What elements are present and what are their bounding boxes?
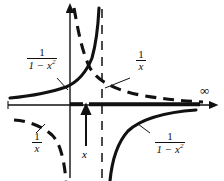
label-bottom-left-denominator: x <box>32 142 42 154</box>
label-top-left: 1 1 − x2 <box>14 47 70 72</box>
label-right-numerator: 1 <box>136 49 146 60</box>
label-right: 1 x <box>128 49 154 73</box>
label-bottom-right: 1 1 − x2 <box>140 131 200 156</box>
label-bottom-left: 1 x <box>24 131 50 155</box>
label-bottom-left-numerator: 1 <box>32 131 42 142</box>
leader-line-right <box>105 78 130 88</box>
math-figure: 1 1 − x2 1 x 1 x 1 1 − x2 ∞ x <box>0 0 224 181</box>
label-right-denominator: x <box>136 60 146 72</box>
infinity-label: ∞ <box>200 83 209 99</box>
x-marker-label: x <box>82 148 87 160</box>
label-top-left-denominator: 1 − x2 <box>27 58 58 71</box>
label-top-left-numerator: 1 <box>27 47 58 58</box>
label-bottom-right-numerator: 1 <box>155 131 186 142</box>
label-bottom-right-denominator: 1 − x2 <box>155 142 186 155</box>
